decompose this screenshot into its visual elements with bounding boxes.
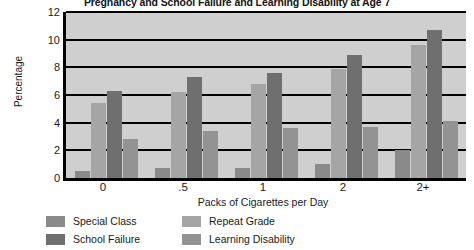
bar	[395, 150, 410, 178]
legend-label: Learning Disability	[209, 233, 295, 245]
plot-area: 024681012	[63, 12, 466, 181]
legend-label: School Failure	[73, 233, 140, 245]
bar-group	[66, 12, 146, 178]
x-tick-label: 2+	[383, 181, 463, 193]
bar	[443, 121, 458, 178]
y-tick-label: 0	[54, 172, 60, 184]
y-tick-label: 8	[54, 61, 60, 73]
bar	[347, 55, 362, 178]
y-tick-label: 12	[48, 6, 60, 18]
legend-swatch-icon	[46, 216, 65, 227]
x-tick-label: 0	[63, 181, 143, 193]
legend-label: Special Class	[73, 215, 137, 227]
bar-group	[226, 12, 306, 178]
legend-item[interactable]: School Failure	[46, 231, 182, 247]
bar	[187, 77, 202, 178]
bar	[427, 30, 442, 178]
chart-figure: Pregnancy and School Failure and Learnin…	[0, 0, 474, 250]
legend-label: Repeat Grade	[209, 215, 275, 227]
bar	[235, 168, 250, 178]
y-tick-label: 4	[54, 117, 60, 129]
bar	[171, 92, 186, 178]
bar	[283, 128, 298, 178]
bar	[331, 69, 346, 178]
y-tick-label: 10	[48, 34, 60, 46]
x-tick-label: .5	[143, 181, 223, 193]
bar-group	[386, 12, 466, 178]
legend-swatch-icon	[182, 234, 201, 245]
bar	[123, 139, 138, 178]
bar	[363, 127, 378, 178]
bar-group	[306, 12, 386, 178]
legend-item[interactable]: Repeat Grade	[182, 213, 318, 229]
x-tick-label: 1	[223, 181, 303, 193]
bar-group	[146, 12, 226, 178]
y-axis-label: Percentage	[13, 37, 24, 127]
bar-groups	[66, 12, 466, 178]
bar	[75, 171, 90, 178]
chart-legend: Special ClassRepeat GradeSchool FailureL…	[46, 213, 346, 247]
y-tick-label: 6	[54, 89, 60, 101]
bar	[91, 103, 106, 178]
legend-swatch-icon	[46, 234, 65, 245]
legend-item[interactable]: Learning Disability	[182, 231, 318, 247]
bar	[315, 164, 330, 178]
x-tick-label: 2	[303, 181, 383, 193]
bar	[107, 91, 122, 178]
legend-item[interactable]: Special Class	[46, 213, 182, 229]
y-tick-label: 2	[54, 144, 60, 156]
x-axis-ticks: 0.5122+	[63, 181, 463, 193]
chart-title: Pregnancy and School Failure and Learnin…	[0, 0, 474, 8]
x-axis-label: Packs of Cigarettes per Day	[63, 196, 463, 208]
bar	[411, 45, 426, 178]
bar	[251, 84, 266, 178]
bar	[267, 73, 282, 178]
legend-swatch-icon	[182, 216, 201, 227]
bar	[203, 131, 218, 178]
bar	[155, 168, 170, 178]
